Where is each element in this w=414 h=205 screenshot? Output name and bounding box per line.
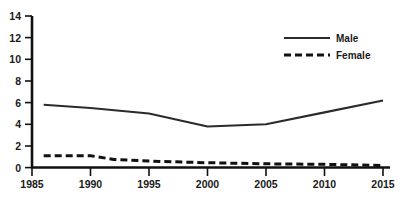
y-tick-label-2: 2 — [15, 140, 21, 152]
chart-legend: Male Female — [284, 33, 371, 61]
y-tick-label-14: 14 — [9, 10, 21, 22]
x-axis-tick-labels: 1985 1990 1995 2000 2005 2010 2015 — [20, 178, 395, 190]
legend-label-male: Male — [336, 33, 359, 44]
x-tick-label-1995: 1995 — [137, 178, 161, 190]
y-tick-label-0: 0 — [15, 162, 21, 174]
y-tick-label-10: 10 — [9, 53, 21, 65]
series-line-female — [44, 156, 383, 166]
y-tick-label-8: 8 — [15, 75, 21, 87]
y-tick-label-4: 4 — [15, 118, 21, 130]
x-tick-label-1985: 1985 — [20, 178, 44, 190]
x-tick-label-2005: 2005 — [254, 178, 278, 190]
chart-canvas: 14 12 10 8 6 4 2 0 1985 1990 1995 2000 2… — [0, 0, 414, 205]
x-tick-label-2000: 2000 — [196, 178, 220, 190]
legend-label-female: Female — [336, 50, 371, 61]
y-axis-tick-labels: 14 12 10 8 6 4 2 0 — [9, 10, 21, 174]
line-chart: 14 12 10 8 6 4 2 0 1985 1990 1995 2000 2… — [0, 0, 414, 205]
y-tick-label-6: 6 — [15, 97, 21, 109]
x-tick-label-1990: 1990 — [79, 178, 103, 190]
x-tick-label-2010: 2010 — [313, 178, 337, 190]
x-tick-label-2015: 2015 — [371, 178, 395, 190]
y-tick-label-12: 12 — [9, 32, 21, 44]
series-line-male — [44, 100, 383, 126]
